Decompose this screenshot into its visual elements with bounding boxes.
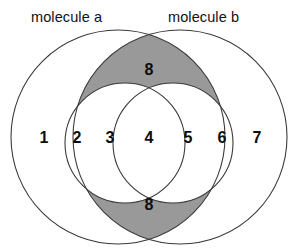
region-label-r3: 3 bbox=[100, 130, 120, 146]
region-label-r8_bottom: 8 bbox=[139, 197, 159, 213]
region-label-r4: 4 bbox=[139, 130, 159, 146]
region-label-r5: 5 bbox=[178, 130, 198, 146]
region-label-r2: 2 bbox=[67, 130, 87, 146]
region-label-r8_top: 8 bbox=[139, 62, 159, 78]
region-label-r7: 7 bbox=[247, 130, 267, 146]
region-label-r6: 6 bbox=[212, 130, 232, 146]
venn-diagram: molecule a molecule b bbox=[0, 0, 298, 248]
region-label-r1: 1 bbox=[34, 130, 54, 146]
